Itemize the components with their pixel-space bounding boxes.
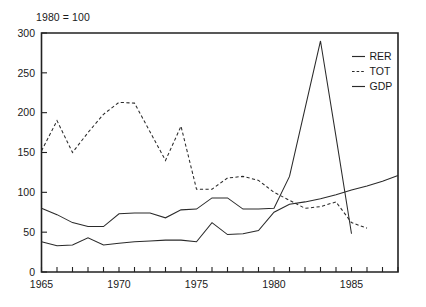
x-axis-tick-label: 1985 <box>340 278 364 290</box>
y-axis-tick-labels: 050100150200250300 <box>17 27 35 278</box>
chart-plot-svg: 050100150200250300 19651970197519801985 … <box>0 0 426 307</box>
y-axis-tick-label: 0 <box>29 266 35 278</box>
series-line-tot <box>42 102 368 228</box>
series-line-rer <box>42 41 352 234</box>
legend-label-tot: TOT <box>370 65 391 77</box>
y-axis-tick-label: 150 <box>17 146 35 158</box>
x-axis-tick-label: 1965 <box>30 278 54 290</box>
x-axis-tick-label: 1970 <box>107 278 131 290</box>
x-axis-tick-labels: 19651970197519801985 <box>30 278 364 290</box>
legend-label-gdp: GDP <box>370 80 393 92</box>
x-axis-tick-label: 1980 <box>262 278 286 290</box>
y-axis-tick-label: 250 <box>17 67 35 79</box>
chart-container: 1980 = 100 050100150200250300 1965197019… <box>0 0 426 307</box>
y-axis-ticks <box>42 33 48 272</box>
series-line-gdp <box>42 176 399 246</box>
y-axis-tick-label: 300 <box>17 27 35 39</box>
y-axis-tick-label: 200 <box>17 106 35 118</box>
plot-border <box>42 33 399 272</box>
x-axis-tick-label: 1975 <box>185 278 209 290</box>
plot-frame <box>42 33 399 272</box>
chart-legend: RERTOTGDP <box>352 50 392 92</box>
y-axis-tick-label: 100 <box>17 186 35 198</box>
legend-label-rer: RER <box>370 50 393 62</box>
data-series-group <box>42 41 399 246</box>
y-axis-tick-label: 50 <box>23 226 35 238</box>
